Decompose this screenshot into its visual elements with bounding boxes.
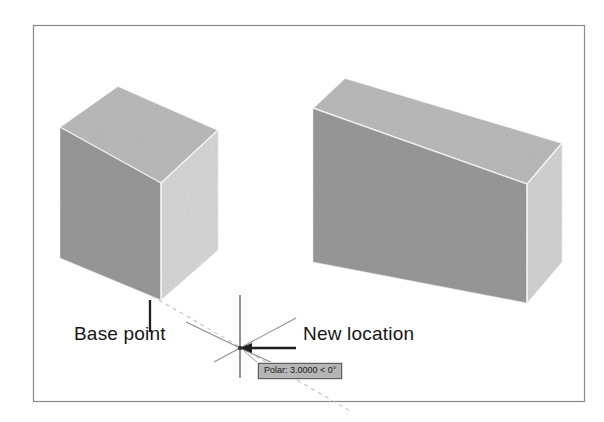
new-location-label: New location	[303, 323, 414, 345]
illustration-canvas: Base point New location Polar: 3.0000 < …	[0, 0, 604, 422]
cad-move-figure	[0, 0, 604, 422]
polar-tracking-tooltip: Polar: 3.0000 < 0°	[258, 363, 342, 379]
base-point-label: Base point	[74, 323, 166, 345]
